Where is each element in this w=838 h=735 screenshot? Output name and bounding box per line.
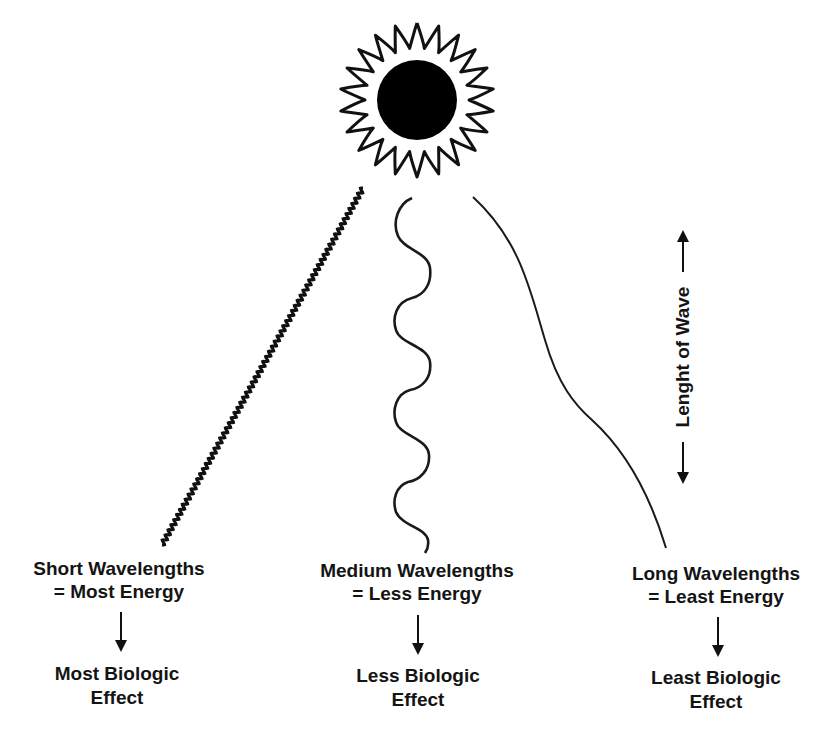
sun-disc xyxy=(377,60,457,140)
diagram-canvas xyxy=(0,0,838,735)
medium-wavelength-wave xyxy=(395,198,431,553)
short-wavelength-effect: Most Biologic Effect xyxy=(17,662,217,710)
short-effect-line1: Most Biologic xyxy=(17,662,217,686)
long-wavelength-label: Long Wavelengths = Least Energy xyxy=(616,562,816,608)
long-wavelength-wave xyxy=(473,197,666,548)
long-effect-line1: Least Biologic xyxy=(616,666,816,690)
medium-wavelength-title: Medium Wavelengths xyxy=(307,559,527,582)
short-wavelength-label: Short Wavelengths = Most Energy xyxy=(19,557,219,603)
long-effect-line2: Effect xyxy=(616,690,816,714)
short-effect-line2: Effect xyxy=(17,686,217,710)
medium-wavelength-effect: Less Biologic Effect xyxy=(318,664,518,712)
medium-effect-line1: Less Biologic xyxy=(318,664,518,688)
sun-icon xyxy=(341,23,493,177)
short-wavelength-wave xyxy=(162,188,363,545)
medium-wavelength-label: Medium Wavelengths = Less Energy xyxy=(307,559,527,605)
medium-wavelength-energy: = Less Energy xyxy=(307,582,527,605)
long-wavelength-energy: = Least Energy xyxy=(616,585,816,608)
short-wavelength-title: Short Wavelengths xyxy=(19,557,219,580)
short-wavelength-energy: = Most Energy xyxy=(19,580,219,603)
long-wavelength-effect: Least Biologic Effect xyxy=(616,666,816,714)
axis-label-text: Lenght of Wave xyxy=(672,287,694,428)
medium-effect-line2: Effect xyxy=(318,688,518,712)
long-wavelength-title: Long Wavelengths xyxy=(616,562,816,585)
